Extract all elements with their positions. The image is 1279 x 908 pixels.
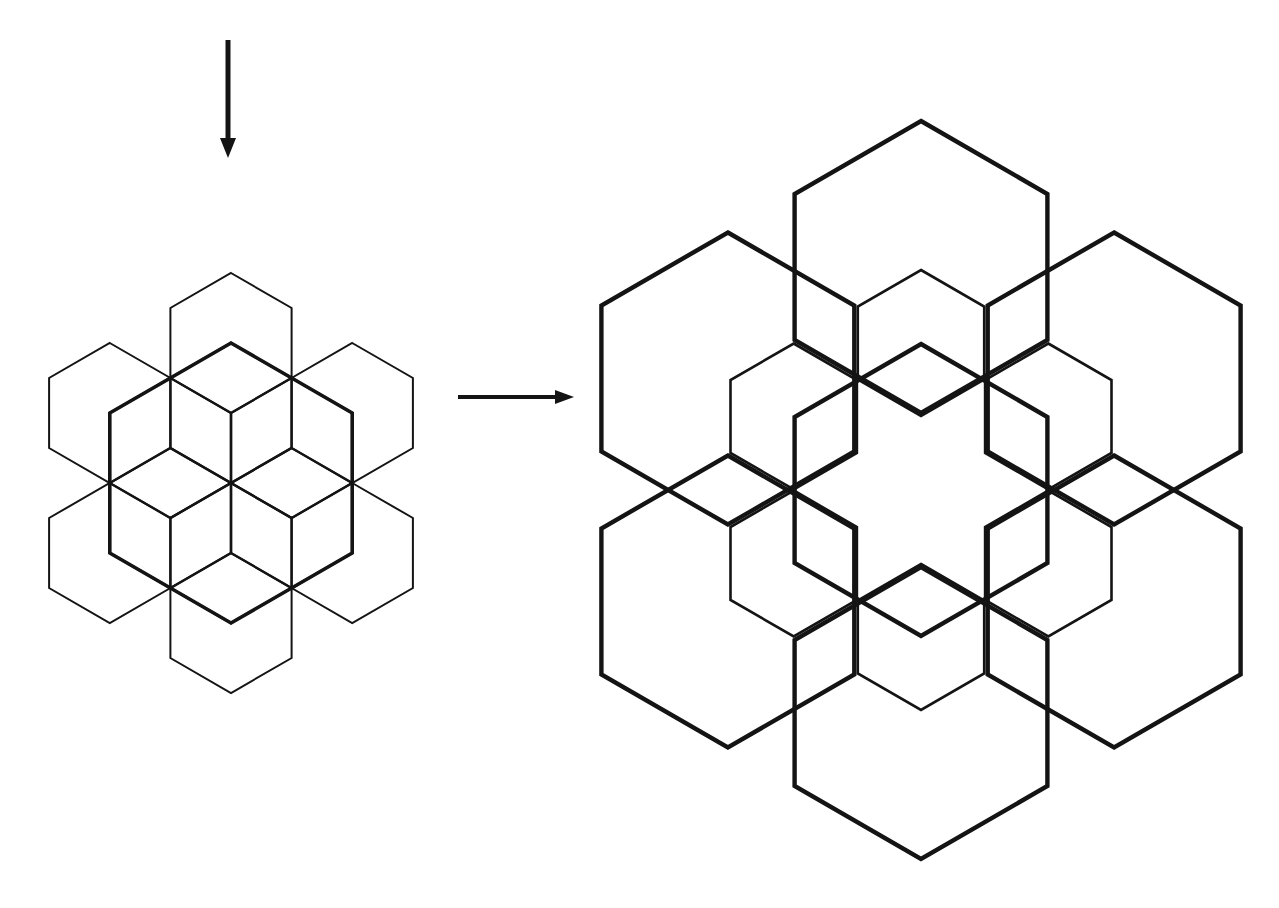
hexagon-shape [988,233,1241,525]
central-thick-hex [795,344,1048,636]
arrow-head [220,138,236,158]
figures [49,121,1241,859]
hexagon-shape [795,567,1048,859]
right-arrow-icon [458,390,574,404]
hexagon-shape [795,121,1048,413]
hexagon-shape [795,344,1048,636]
down-arrow-icon [220,40,236,158]
hexagon-shape [601,233,854,525]
hexagon-shape [988,456,1241,748]
arrows [220,40,574,404]
diagram-canvas [0,0,1279,908]
outer-big-ring [601,121,1240,859]
arrow-head [555,390,574,404]
expanded-hex-rosette [601,121,1240,859]
inner-hex-ring [110,343,352,623]
source-hex-pattern [49,273,413,693]
hexagon-shape [601,456,854,748]
